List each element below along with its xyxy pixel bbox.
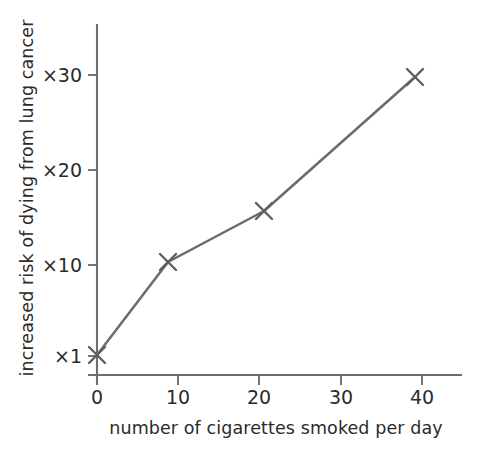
- x-tick-label-20: 20: [247, 386, 271, 408]
- y-tick-label-1: ×1: [54, 345, 82, 367]
- y-tick-label-30: ×30: [42, 64, 82, 86]
- y-tick-label-10: ×10: [42, 254, 82, 276]
- x-tick-label-30: 30: [329, 386, 353, 408]
- x-axis-title: number of cigarettes smoked per day: [109, 418, 443, 438]
- y-axis-title: increased risk of dying from lung cancer: [17, 19, 37, 377]
- lung-cancer-risk-chart: ×30 ×20 ×10 ×1 0 10 20 30 40 number of c…: [0, 0, 482, 453]
- x-tick-label-0: 0: [91, 386, 103, 408]
- x-tick-label-40: 40: [410, 386, 434, 408]
- y-tick-label-20: ×20: [42, 159, 82, 181]
- x-tick-label-10: 10: [166, 386, 190, 408]
